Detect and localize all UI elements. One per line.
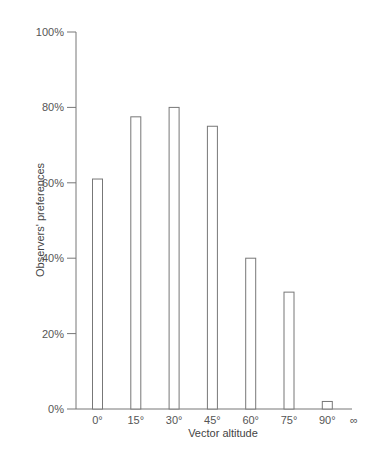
x-axis: 0°15°30°45°60°75°90°∞: [76, 409, 358, 426]
bar: [93, 179, 103, 409]
y-tick-label: 80%: [42, 101, 64, 113]
x-tick-label: 0°: [92, 414, 103, 426]
bar: [207, 126, 217, 409]
x-tick-label: 45°: [204, 414, 221, 426]
y-tick-label: 20%: [42, 328, 64, 340]
x-tick-label: 90°: [319, 414, 336, 426]
y-tick-label: 100%: [36, 26, 64, 38]
x-axis-title: Vector altitude: [188, 427, 258, 439]
bar-chart: 0%20%40%60%80%100% 0°15°30°45°60°75°90°∞…: [0, 0, 378, 457]
bar: [284, 292, 294, 409]
x-tick-label: 60°: [242, 414, 259, 426]
x-tick-label: 75°: [281, 414, 298, 426]
y-tick-label: 0%: [48, 403, 64, 415]
bar: [246, 258, 256, 409]
bar: [169, 107, 179, 409]
x-tick-label: ∞: [350, 414, 358, 426]
x-tick-label: 15°: [127, 414, 144, 426]
bar: [322, 401, 332, 409]
bars: [93, 107, 333, 409]
x-tick-label: 30°: [166, 414, 183, 426]
bar: [131, 117, 141, 409]
y-axis-title: Observers' preferences: [34, 163, 46, 277]
